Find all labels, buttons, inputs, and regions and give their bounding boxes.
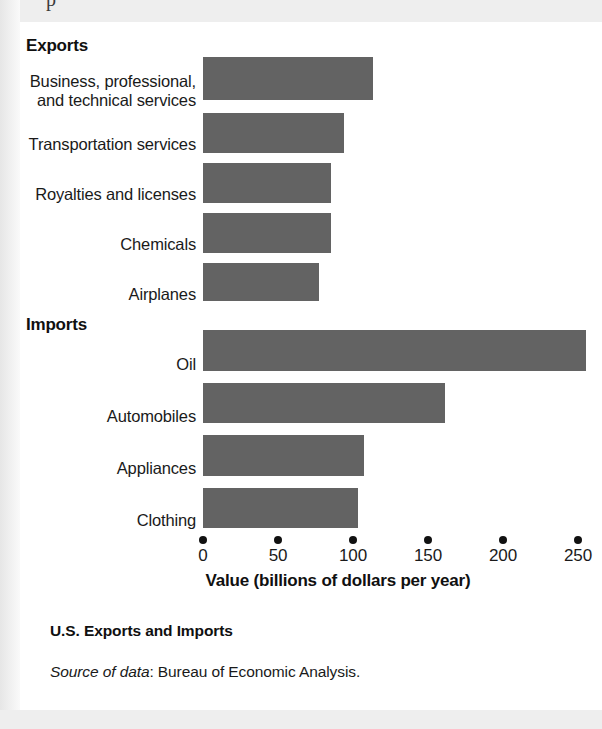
bar-royalties-and-licenses [203, 163, 331, 203]
category-label-transportation-services: Transportation services [29, 135, 196, 154]
page-left-edge [0, 0, 20, 729]
bar-appliances [203, 435, 364, 476]
source-note-text: : Bureau of Economic Analysis. [149, 663, 360, 680]
figure-sheet: Exports Business, professional, and tech… [20, 22, 602, 710]
x-axis-title: Value (billions of dollars per year) [183, 571, 493, 591]
figure-page: p Exports Business, professional, and te… [0, 0, 602, 729]
cropped-text-above: p [46, 0, 57, 11]
bar-chemicals [203, 213, 331, 253]
x-tick-label: 200 [489, 546, 517, 566]
category-label-royalties-and-licenses: Royalties and licenses [35, 185, 196, 204]
x-tick-dot [274, 536, 282, 544]
source-note: Source of data: Bureau of Economic Analy… [50, 663, 360, 681]
bar-airplanes [203, 263, 319, 301]
category-label-airplanes: Airplanes [129, 285, 196, 304]
category-label-appliances: Appliances [117, 459, 196, 478]
category-label-oil: Oil [176, 355, 196, 374]
category-label-clothing: Clothing [137, 511, 196, 530]
bar-clothing [203, 488, 358, 528]
x-tick-dot [199, 536, 207, 544]
page-top-edge [0, 0, 602, 22]
bar-transportation-services [203, 113, 344, 153]
category-label-automobiles: Automobiles [107, 407, 196, 426]
bar-oil [203, 330, 586, 371]
bar-business-professional-technical-services [203, 57, 373, 100]
bar-chart: Exports Business, professional, and tech… [20, 22, 602, 710]
x-tick-label: 100 [339, 546, 367, 566]
bar-automobiles [203, 383, 445, 423]
x-tick-label: 50 [269, 546, 288, 566]
x-tick-dot [499, 536, 507, 544]
group-heading-imports: Imports [26, 315, 87, 335]
x-tick-dot [424, 536, 432, 544]
category-label-chemicals: Chemicals [120, 235, 196, 254]
x-tick-dot [574, 536, 582, 544]
page-bottom-edge [0, 710, 602, 729]
source-note-label: Source of data [50, 663, 149, 680]
x-tick-dot [349, 536, 357, 544]
x-tick-label: 250 [564, 546, 592, 566]
x-tick-label: 150 [414, 546, 442, 566]
figure-caption: U.S. Exports and Imports [50, 622, 233, 640]
group-heading-exports: Exports [26, 36, 88, 56]
x-tick-label: 0 [198, 546, 207, 566]
category-label-business-professional-technical-services: Business, professional, and technical se… [30, 72, 196, 110]
